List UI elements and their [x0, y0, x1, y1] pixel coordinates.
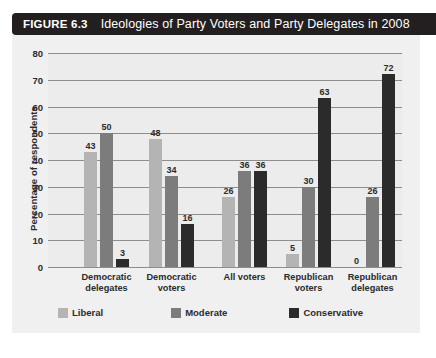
- x-axis-category-label: Democratic voters: [130, 272, 214, 294]
- bar-slot: 30: [302, 53, 315, 267]
- legend-item-conservative: Conservative: [289, 307, 363, 318]
- bar-moderate[interactable]: [302, 187, 315, 267]
- y-axis-tick-label: 30: [32, 181, 43, 192]
- bar-slot: 36: [254, 53, 267, 267]
- bar-value-label: 30: [303, 177, 313, 186]
- figure-container: FIGURE 6.3 Ideologies of Party Voters an…: [0, 0, 436, 358]
- chart-region: Percentage of respondents 01020304050607…: [12, 35, 420, 333]
- y-axis-tick-label: 50: [32, 128, 43, 139]
- bar-slot: 63: [318, 53, 331, 267]
- legend-label-moderate: Moderate: [185, 307, 227, 318]
- bar-conservative[interactable]: [116, 259, 129, 267]
- bar-slot: 26: [222, 53, 235, 267]
- bar-conservative[interactable]: [382, 74, 395, 267]
- figure-title-bar: FIGURE 6.3 Ideologies of Party Voters an…: [12, 13, 436, 35]
- bar-moderate[interactable]: [238, 171, 251, 267]
- bar-group: 53063Republican voters: [280, 53, 337, 267]
- bar-moderate[interactable]: [165, 176, 178, 267]
- legend-item-liberal: Liberal: [58, 307, 103, 318]
- legend-swatch-liberal: [58, 308, 68, 318]
- legend-item-moderate: Moderate: [171, 307, 227, 318]
- bar-slot: 3: [116, 53, 129, 267]
- bar-slot: 16: [181, 53, 194, 267]
- y-axis-tick-label: 70: [32, 74, 43, 85]
- bar-slot: 43: [84, 53, 97, 267]
- y-axis-tick-label: 60: [32, 101, 43, 112]
- bar-conservative[interactable]: [181, 224, 194, 267]
- bar-value-label: 36: [239, 161, 249, 170]
- bar-slot: 48: [149, 53, 162, 267]
- bar-value-label: 43: [85, 142, 95, 151]
- bar-value-label: 0: [354, 257, 359, 266]
- bar-slot: 26: [366, 53, 379, 267]
- bar-group: 263636All voters: [216, 53, 273, 267]
- bar-slot: 36: [238, 53, 251, 267]
- bar-slot: 50: [100, 53, 113, 267]
- x-axis-category-label: Republican delegates: [331, 272, 415, 294]
- bar-moderate[interactable]: [366, 197, 379, 267]
- legend-label-liberal: Liberal: [72, 307, 103, 318]
- y-axis-tick-label: 0: [38, 262, 43, 273]
- bar-value-label: 72: [383, 64, 393, 73]
- bar-conservative[interactable]: [254, 171, 267, 267]
- bar-group: 483416Democratic voters: [143, 53, 200, 267]
- y-axis-tick-label: 40: [32, 155, 43, 166]
- bar-slot: 34: [165, 53, 178, 267]
- bar-slot: 0: [350, 53, 363, 267]
- bar-liberal[interactable]: [286, 254, 299, 267]
- bar-group: 02672Republican delegates: [344, 53, 401, 267]
- bar-slot: 5: [286, 53, 299, 267]
- plot-area: 0102030405060708043503Democratic delegat…: [48, 53, 402, 267]
- bar-moderate[interactable]: [100, 133, 113, 267]
- figure-title: Ideologies of Party Voters and Party Del…: [101, 17, 410, 31]
- bar-value-label: 26: [367, 187, 377, 196]
- bar-liberal[interactable]: [222, 197, 235, 267]
- bar-liberal[interactable]: [84, 152, 97, 267]
- legend-swatch-moderate: [171, 308, 181, 318]
- figure-number: FIGURE 6.3: [23, 18, 88, 30]
- bar-conservative[interactable]: [318, 98, 331, 267]
- bar-value-label: 48: [150, 129, 160, 138]
- bar-value-label: 5: [290, 244, 295, 253]
- bar-liberal[interactable]: [149, 139, 162, 267]
- bar-value-label: 3: [120, 249, 125, 258]
- y-axis-tick-label: 20: [32, 208, 43, 219]
- bar-value-label: 34: [166, 166, 176, 175]
- legend-swatch-conservative: [289, 308, 299, 318]
- bar-value-label: 16: [182, 214, 192, 223]
- bar-group: 43503Democratic delegates: [78, 53, 135, 267]
- bar-value-label: 50: [101, 123, 111, 132]
- y-axis-tick-label: 80: [32, 48, 43, 59]
- bar-value-label: 36: [255, 161, 265, 170]
- y-axis-tick-label: 10: [32, 235, 43, 246]
- legend-label-conservative: Conservative: [303, 307, 363, 318]
- bar-slot: 72: [382, 53, 395, 267]
- chart-legend: Liberal Moderate Conservative: [48, 307, 402, 318]
- bar-value-label: 63: [319, 88, 329, 97]
- bar-value-label: 26: [223, 187, 233, 196]
